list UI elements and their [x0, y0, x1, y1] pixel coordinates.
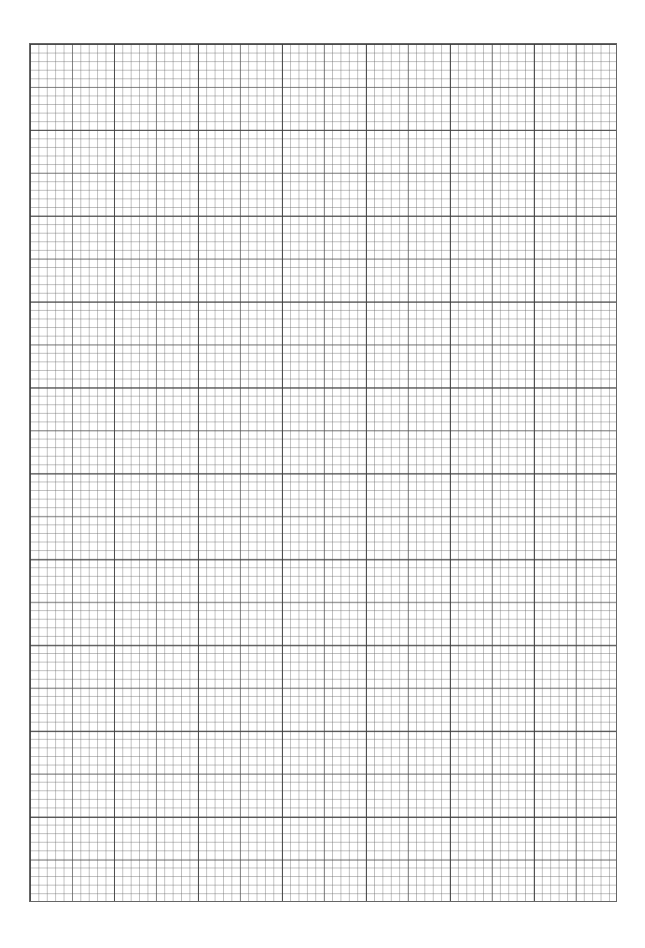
graph-paper-grid	[29, 43, 617, 902]
